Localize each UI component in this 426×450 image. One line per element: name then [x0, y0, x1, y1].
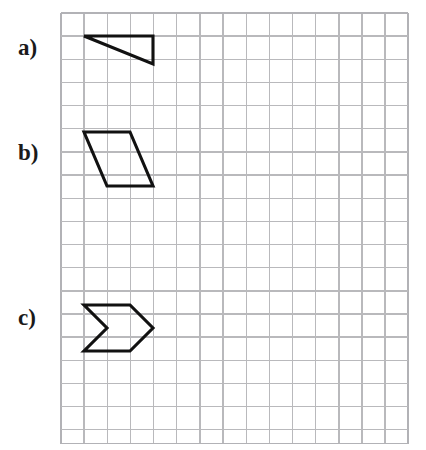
- worksheet-canvas: a)b)c): [0, 0, 426, 450]
- item-label-c: c): [18, 305, 36, 330]
- grid-background: [61, 13, 408, 444]
- item-label-a: a): [18, 35, 37, 60]
- labels-layer: a)b)c): [18, 35, 38, 330]
- item-label-b: b): [18, 140, 38, 165]
- shape-chevron-arrow: [84, 305, 153, 351]
- worksheet-page: a)b)c): [0, 0, 426, 450]
- shape-parallelogram: [84, 132, 153, 186]
- shapes-layer: [84, 36, 153, 351]
